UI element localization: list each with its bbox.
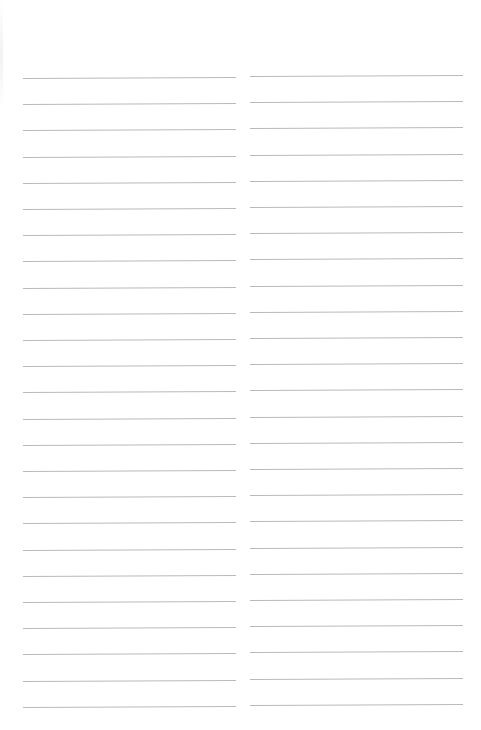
left-column	[23, 0, 236, 730]
ruled-line	[23, 706, 236, 708]
ruled-line	[250, 284, 463, 286]
ruled-line	[250, 573, 463, 575]
ruled-line	[23, 287, 236, 289]
ruled-line	[250, 337, 463, 339]
ruled-line	[250, 677, 463, 679]
ruled-line	[250, 546, 463, 548]
ruled-line	[250, 311, 463, 313]
ruled-line	[250, 494, 463, 496]
ruled-line	[23, 103, 236, 105]
ruled-line	[250, 415, 463, 417]
ruled-line	[250, 258, 463, 260]
ruled-line	[23, 470, 236, 472]
ruled-line	[23, 496, 236, 498]
ruled-line	[23, 627, 236, 629]
ruled-line	[23, 260, 236, 262]
right-column	[250, 0, 463, 730]
ruled-line	[23, 549, 236, 551]
ruled-line	[23, 601, 236, 603]
ruled-line	[23, 234, 236, 236]
ruled-line	[250, 468, 463, 470]
ruled-line	[23, 313, 236, 315]
ruled-line	[250, 232, 463, 234]
ruled-line	[23, 653, 236, 655]
ruled-line	[250, 625, 463, 627]
ruled-line	[23, 418, 236, 420]
ruled-line	[250, 599, 463, 601]
page-edge-shadow	[0, 0, 3, 110]
ruled-line	[23, 522, 236, 524]
ruled-line	[250, 704, 463, 706]
ruled-line	[250, 180, 463, 182]
ruled-line	[250, 153, 463, 155]
ruled-line	[23, 680, 236, 682]
ruled-line	[23, 339, 236, 341]
ruled-line	[23, 575, 236, 577]
ruled-line	[250, 363, 463, 365]
ruled-line	[250, 101, 463, 103]
ruled-line	[23, 129, 236, 131]
ruled-line	[23, 156, 236, 158]
ruled-line	[23, 391, 236, 393]
ruled-line	[250, 389, 463, 391]
ruled-line	[23, 365, 236, 367]
ruled-line	[250, 75, 463, 77]
ruled-line	[23, 208, 236, 210]
ruled-line	[250, 127, 463, 129]
ruled-line	[250, 651, 463, 653]
ruled-line	[250, 206, 463, 208]
ruled-line	[23, 444, 236, 446]
ruled-line	[23, 182, 236, 184]
ruled-line	[250, 520, 463, 522]
ruled-line	[250, 442, 463, 444]
ruled-line	[23, 77, 236, 79]
